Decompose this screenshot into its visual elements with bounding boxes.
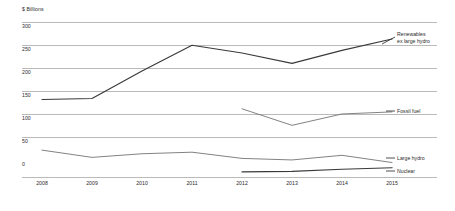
series-paths [42, 39, 392, 172]
chart-plot-area [0, 0, 455, 211]
gridlines [22, 22, 437, 177]
series-path-renewables-ex-large-hydro [42, 39, 392, 99]
label-leader-lines [382, 37, 395, 171]
chart-container: $ Billions 300 250 200 150 100 50 0 2008… [0, 0, 455, 211]
series-path-large-hydro [42, 150, 392, 162]
series-path-fossil-fuel [242, 109, 392, 126]
series-path-nuclear [242, 168, 392, 172]
